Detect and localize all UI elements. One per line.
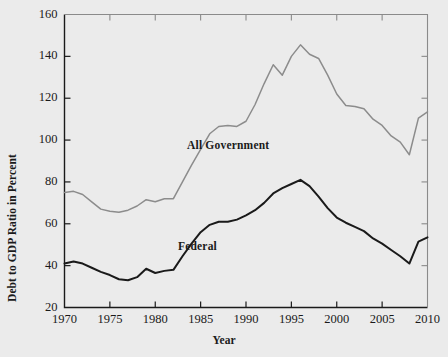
x-tick-label: 1995 <box>269 312 313 327</box>
chart-plot-area <box>0 0 448 357</box>
x-tick-label: 2000 <box>315 312 359 327</box>
x-tick-label: 1975 <box>88 312 132 327</box>
x-tick-label: 1990 <box>224 312 268 327</box>
y-tick-label: 160 <box>39 7 58 22</box>
y-tick-label: 100 <box>39 132 58 147</box>
y-tick-label: 40 <box>45 258 58 273</box>
y-tick-label: 60 <box>45 216 58 231</box>
x-tick-label: 1970 <box>43 312 87 327</box>
chart-background <box>0 0 448 357</box>
chart-figure: Debt to GDP Ratio in Percent Year 160140… <box>0 0 448 357</box>
y-tick-label: 140 <box>39 48 58 63</box>
series-label-federal: Federal <box>178 240 217 252</box>
x-tick-label: 1980 <box>133 312 177 327</box>
x-tick-label: 2010 <box>406 312 448 327</box>
series-label-all-government: All Government <box>187 139 269 151</box>
y-tick-label: 120 <box>39 90 58 105</box>
x-tick-label: 1985 <box>179 312 223 327</box>
y-tick-label: 80 <box>45 174 58 189</box>
x-axis-title: Year <box>0 334 448 346</box>
x-tick-label: 2005 <box>360 312 404 327</box>
y-axis-title: Debt to GDP Ratio in Percent <box>6 154 18 302</box>
